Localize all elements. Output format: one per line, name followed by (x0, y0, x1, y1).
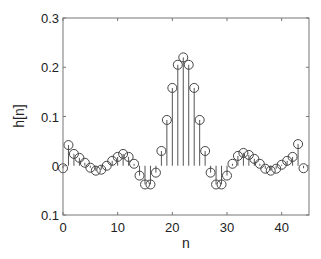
y-axis-label: h[n] (11, 104, 27, 127)
stem (217, 166, 226, 189)
stem (299, 164, 308, 173)
x-tick-label: 0 (59, 220, 66, 235)
stem (141, 166, 150, 189)
stem (168, 83, 177, 165)
y-axis-ticks: 0.30.20.100.1 (41, 11, 309, 223)
stem (206, 166, 215, 177)
stem (261, 164, 270, 173)
plot-area (59, 53, 309, 189)
stem (201, 146, 210, 165)
stem (75, 153, 84, 165)
y-tick-label: 0.1 (41, 110, 59, 125)
stem (288, 152, 297, 165)
x-axis-ticks: 010203040 (59, 18, 289, 235)
stem (86, 163, 95, 172)
x-tick-label: 10 (110, 220, 124, 235)
stem (233, 151, 242, 165)
y-tick-label: 0.2 (41, 60, 59, 75)
stem (119, 149, 128, 165)
stem (113, 152, 122, 165)
x-tick-label: 40 (274, 220, 288, 235)
stem (228, 159, 237, 168)
x-tick-label: 30 (220, 220, 234, 235)
stem (80, 158, 89, 167)
stem (124, 152, 133, 165)
stem (195, 115, 204, 165)
stem-plot: 010203040 0.30.20.100.1 n h[n] (0, 0, 321, 259)
stem (244, 150, 253, 165)
stem (69, 149, 78, 165)
y-tick-label: 0.3 (41, 11, 59, 26)
stem (130, 159, 139, 168)
stem (173, 60, 182, 165)
stem (162, 115, 171, 165)
stem (151, 166, 160, 177)
stem (64, 141, 73, 166)
y-tick-label: 0 (52, 159, 59, 174)
stem (266, 166, 275, 175)
stem (157, 146, 166, 165)
y-tick-label: 0.1 (41, 208, 59, 223)
stem (179, 53, 188, 166)
x-axis-label: n (182, 235, 190, 251)
stem (255, 159, 264, 168)
stem (190, 83, 199, 165)
x-tick-label: 20 (165, 220, 179, 235)
stem (184, 60, 193, 165)
axes-box (63, 18, 309, 215)
